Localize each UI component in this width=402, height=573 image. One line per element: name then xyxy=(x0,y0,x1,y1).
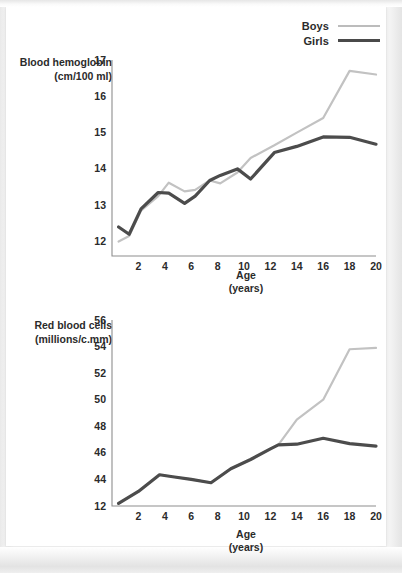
chart2-xtick-14: 14 xyxy=(291,510,303,522)
chart2-ytick-44: 44 xyxy=(94,473,106,485)
chart2-ytick-46: 46 xyxy=(94,446,106,458)
chart2-xtick-8: 8 xyxy=(215,510,221,522)
chart2-xtick-6: 6 xyxy=(188,510,194,522)
chart2-ytick-54: 54 xyxy=(94,340,106,352)
chart2-series-boys xyxy=(119,348,376,503)
chart2-ytick-12: 12 xyxy=(94,500,106,512)
chart2-xtick-10: 10 xyxy=(238,510,250,522)
chart2-xtick-18: 18 xyxy=(344,510,356,522)
chart2-xtick-4: 4 xyxy=(162,510,168,522)
chart2-plot-area: 12444648505254562468101214161820 xyxy=(0,0,402,573)
chart2-xtick-2: 2 xyxy=(135,510,141,522)
chart2-ytick-50: 50 xyxy=(94,393,106,405)
chart2-xtick-16: 16 xyxy=(317,510,329,522)
chart2-xtick-12: 12 xyxy=(265,510,277,522)
chart2-axis-lines xyxy=(112,320,376,506)
chart2-series-girls xyxy=(119,438,376,503)
chart2-ytick-56: 56 xyxy=(94,314,106,326)
chart2-ytick-52: 52 xyxy=(94,367,106,379)
chart2-xtick-20: 20 xyxy=(370,510,382,522)
chart2-ytick-48: 48 xyxy=(94,420,106,432)
